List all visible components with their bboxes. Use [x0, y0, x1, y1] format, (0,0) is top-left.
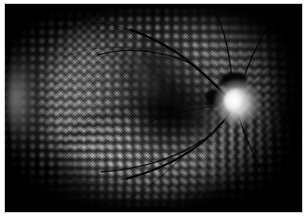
fundus-image-plate — [5, 4, 302, 212]
fundus-figure-root: red-free monochrome wide-field fundus mo… — [0, 0, 308, 224]
macula — [124, 71, 213, 154]
edge-crescent-artifact — [6, 31, 54, 164]
image-plate-frame — [4, 3, 303, 213]
